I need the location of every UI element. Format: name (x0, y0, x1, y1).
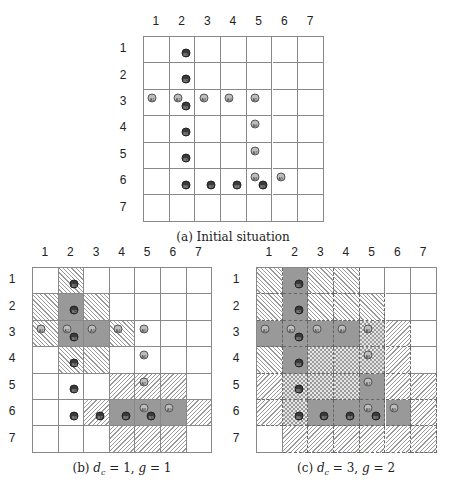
agent-b-marker: B4 (294, 359, 303, 368)
grid-cell (144, 63, 170, 89)
grid-cell (411, 268, 437, 294)
grid-cell (33, 294, 59, 320)
grid-cell (386, 426, 412, 452)
row-label: 5 (2, 378, 22, 392)
agent-b-marker: B3 (181, 102, 190, 111)
grid-cell (195, 63, 221, 89)
agent-b-marker: B9 (258, 180, 267, 189)
column-label: 3 (310, 245, 330, 259)
agent-a-marker: A3 (88, 324, 97, 333)
row-label: 5 (113, 147, 133, 161)
grid-cell (221, 195, 247, 221)
agent-a-marker: A1 (148, 93, 157, 102)
grid-cell (257, 294, 283, 320)
grid-cell (257, 426, 283, 452)
agent-b-marker: B1 (294, 279, 303, 288)
row-label: 3 (2, 325, 22, 339)
column-label: 1 (35, 245, 55, 259)
grid-cell (187, 268, 213, 294)
grid-cell (298, 195, 324, 221)
figure-caption: (a) Initial situation (176, 230, 289, 244)
grid-cell (273, 37, 299, 63)
agent-b-marker: B7 (320, 411, 329, 420)
grid-cell (273, 143, 299, 169)
agent-a-marker: A9 (276, 172, 285, 181)
grid-cell (33, 347, 59, 373)
grid-cell (308, 294, 334, 320)
agent-a-marker: A8 (139, 403, 148, 412)
column-label: 7 (413, 245, 433, 259)
grid-cell (308, 347, 334, 373)
grid-cell (135, 268, 161, 294)
agent-a-marker: A4 (338, 324, 347, 333)
column-label: 3 (197, 14, 217, 28)
agent-b-marker: B2 (181, 75, 190, 84)
column-label: 6 (163, 245, 183, 259)
grid-cell (195, 143, 221, 169)
agent-a-marker: A3 (312, 324, 321, 333)
column-label: 4 (336, 245, 356, 259)
grid-cell (411, 400, 437, 426)
grid-cell (257, 268, 283, 294)
grid-cell (187, 321, 213, 347)
grid-cell (187, 400, 213, 426)
grid-cell (298, 37, 324, 63)
agent-b-marker: B1 (70, 279, 79, 288)
figure-caption: (b) dc = 1, g = 1 (73, 461, 172, 477)
grid-cell (144, 143, 170, 169)
agent-a-marker: A3 (199, 93, 208, 102)
row-label: 1 (113, 41, 133, 55)
grid-cell (308, 268, 334, 294)
column-label: 5 (249, 14, 269, 28)
column-label: 5 (362, 245, 382, 259)
row-label: 2 (2, 299, 22, 313)
grid-cell (257, 374, 283, 400)
agent-b-marker: B7 (96, 411, 105, 420)
column-label: 1 (259, 245, 279, 259)
row-label: 6 (113, 173, 133, 187)
row-label: 7 (226, 431, 246, 445)
grid-cell (84, 426, 110, 452)
grid-cell (386, 268, 412, 294)
row-label: 6 (2, 404, 22, 418)
column-label: 5 (137, 245, 157, 259)
grid-cell (298, 169, 324, 195)
grid-cell (33, 374, 59, 400)
agent-b-marker: B7 (207, 180, 216, 189)
grid-cell (170, 195, 196, 221)
agent-b-marker: B2 (294, 306, 303, 315)
grid-cell (84, 374, 110, 400)
agent-a-marker: A1 (37, 324, 46, 333)
grid-cell (386, 294, 412, 320)
grid-cell (411, 426, 437, 452)
grid-cell (187, 347, 213, 373)
column-label: 7 (300, 14, 320, 28)
grid-cell (273, 63, 299, 89)
agent-a-marker: A7 (251, 146, 260, 155)
grid-cell (84, 347, 110, 373)
grid-cell (257, 400, 283, 426)
column-label: 6 (274, 14, 294, 28)
grid-cell (110, 268, 136, 294)
grid-cell (298, 63, 324, 89)
agent-b-marker: B5 (70, 385, 79, 394)
figure-caption: (c) dc = 3, g = 2 (297, 461, 395, 477)
grid-cell (161, 374, 187, 400)
grid-c: B1B2A1A2B3A3A4A5B4A6B5A7B6B7B8A8B9A9 (256, 267, 437, 453)
row-label: 4 (226, 351, 246, 365)
column-label: 1 (146, 14, 166, 28)
agent-b-marker: B9 (147, 411, 156, 420)
agent-b-marker: B3 (294, 333, 303, 342)
agent-a-marker: A8 (251, 172, 260, 181)
grid-cell (360, 268, 386, 294)
grid-cell (298, 143, 324, 169)
row-label: 7 (2, 431, 22, 445)
grid-cell (360, 294, 386, 320)
row-label: 3 (113, 94, 133, 108)
column-label: 2 (60, 245, 80, 259)
agent-a-marker: A6 (251, 120, 260, 129)
grid-cell (298, 116, 324, 142)
agent-b-marker: B3 (70, 333, 79, 342)
agent-b-marker: B5 (181, 154, 190, 163)
grid-cell (144, 116, 170, 142)
